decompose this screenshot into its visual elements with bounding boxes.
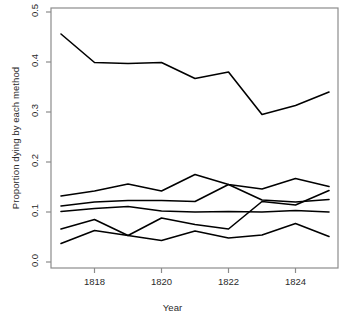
line-chart-plot [0, 0, 345, 323]
y-tick-label: 0.5 [29, 0, 40, 23]
y-tick-label: 0.3 [29, 99, 40, 123]
plot-background [0, 0, 345, 323]
y-tick-label: 0.1 [29, 199, 40, 223]
y-axis-title: Proportion dying by each method [10, 8, 24, 268]
y-tick-label: 0.4 [29, 49, 40, 73]
y-tick-label: 0.2 [29, 149, 40, 173]
chart-figure: Proportion dying by each method Year 0.0… [0, 0, 345, 323]
x-axis-title: Year [0, 302, 345, 313]
x-tick-label: 1818 [81, 276, 109, 287]
y-tick-label: 0.0 [29, 249, 40, 273]
x-tick-label: 1820 [148, 276, 176, 287]
x-tick-label: 1822 [215, 276, 243, 287]
x-tick-label: 1824 [282, 276, 310, 287]
